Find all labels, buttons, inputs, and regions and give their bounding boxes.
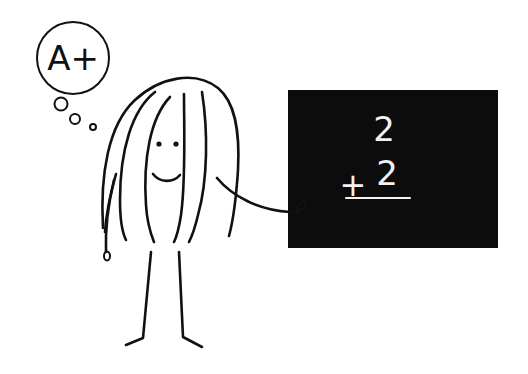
pointing-arm: [217, 178, 298, 212]
left-leg: [126, 252, 151, 345]
thought-bubble-text: A+: [47, 38, 99, 78]
smile: [153, 174, 180, 181]
hair-strand: [145, 97, 170, 242]
thought-bubble: A+: [37, 22, 109, 130]
blackboard: 2 2 +: [288, 90, 498, 248]
left-hand-strand: [106, 180, 114, 252]
left-hand-loop: [104, 252, 110, 261]
left-eye: [156, 141, 161, 146]
thought-dot-small: [90, 124, 96, 130]
thought-dot-large: [55, 98, 68, 111]
hair-strand: [189, 92, 206, 242]
blackboard-bottom-number: 2: [376, 153, 398, 193]
thought-dot-medium: [70, 114, 80, 124]
girl-figure: [102, 78, 305, 347]
right-leg: [179, 252, 202, 347]
right-eye: [173, 141, 178, 146]
hair-strand: [174, 94, 184, 242]
blackboard-top-number: 2: [373, 109, 395, 149]
hair-strand: [120, 92, 155, 240]
teacher-illustration: A+ 2 2 +: [0, 0, 528, 374]
